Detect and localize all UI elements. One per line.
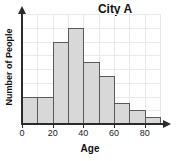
histogram-bar [68,28,84,124]
x-axis-line [21,123,164,125]
histogram-bar [129,110,145,124]
x-axis-title: Age [0,143,180,154]
plot-area [22,14,160,124]
histogram-bar [83,62,99,124]
y-axis-arrow-icon [18,6,26,14]
x-tick-label: 60 [109,128,119,138]
x-tick-label: 20 [48,128,58,138]
x-axis-arrow-icon [163,120,171,128]
histogram-bar [99,76,115,124]
histogram-bar [53,42,69,125]
histogram-bar [114,103,130,124]
x-tick-label: 40 [78,128,88,138]
y-axis-title: Number of People [4,17,14,117]
x-tick-label: 80 [140,128,150,138]
x-tick-label: 0 [19,128,24,138]
bar-series [22,14,160,124]
histogram-chart: City A 020406080 Age Number of People [0,0,180,161]
gridline-vertical [160,14,161,124]
y-axis-line [21,12,23,125]
histogram-bar [22,97,38,125]
histogram-bar [37,97,53,125]
